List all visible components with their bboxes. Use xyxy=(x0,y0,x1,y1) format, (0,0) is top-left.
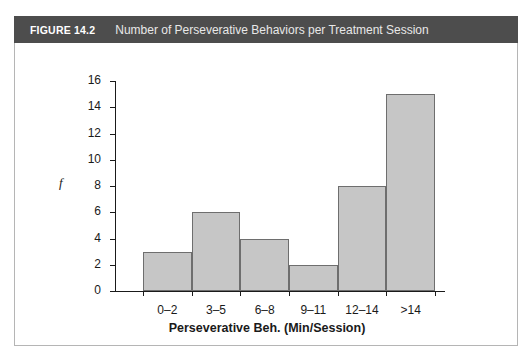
y-tick-10: 10 xyxy=(110,160,115,161)
bar xyxy=(143,252,192,291)
y-tick-label-8: 8 xyxy=(94,178,101,192)
y-tick-6: 6 xyxy=(110,212,115,213)
x-tick-2 xyxy=(240,291,241,296)
y-tick-label-12: 12 xyxy=(88,126,101,140)
x-tick-4 xyxy=(338,291,339,296)
y-tick-label-2: 2 xyxy=(94,257,101,271)
figure-panel: f 0246810121416 0–23–56–89–1112–14>14 Pe… xyxy=(14,43,518,346)
x-tick-label-4: 12–14 xyxy=(338,303,387,317)
bar xyxy=(240,239,289,292)
x-tick-label-2: 6–8 xyxy=(240,303,289,317)
y-tick-14: 14 xyxy=(110,107,115,108)
x-tick-label-0: 0–2 xyxy=(143,303,192,317)
y-tick-2: 2 xyxy=(110,265,115,266)
y-axis-title: f xyxy=(59,175,63,191)
x-tick-5 xyxy=(386,291,387,296)
y-tick-label-4: 4 xyxy=(94,231,101,245)
y-tick-label-14: 14 xyxy=(88,99,101,113)
figure-header-bar: FIGURE 14.2 Number of Perseverative Beha… xyxy=(14,16,518,43)
x-tick-end xyxy=(435,291,436,296)
bar xyxy=(289,265,338,291)
figure-number-label: FIGURE 14.2 xyxy=(30,24,95,36)
y-tick-8: 8 xyxy=(110,186,115,187)
y-tick-label-6: 6 xyxy=(94,204,101,218)
bar xyxy=(338,186,387,291)
y-tick-0: 0 xyxy=(110,291,115,292)
y-tick-label-16: 16 xyxy=(88,73,101,87)
y-tick-12: 12 xyxy=(110,134,115,135)
x-axis-title: Perseverative Beh. (Min/Session) xyxy=(15,321,519,335)
figure-caption-label: Number of Perseverative Behaviors per Tr… xyxy=(115,23,428,37)
y-tick-label-10: 10 xyxy=(88,152,101,166)
bar xyxy=(386,94,435,291)
figure-card: FIGURE 14.2 Number of Perseverative Beha… xyxy=(14,16,518,346)
x-tick-label-5: >14 xyxy=(386,303,435,317)
bar xyxy=(192,212,241,291)
y-tick-4: 4 xyxy=(110,239,115,240)
x-tick-0 xyxy=(143,291,144,296)
x-tick-label-3: 9–11 xyxy=(289,303,338,317)
plot-area: 0246810121416 0–23–56–89–1112–14>14 xyxy=(115,81,445,291)
x-tick-1 xyxy=(192,291,193,296)
x-axis-line xyxy=(115,291,445,292)
y-tick-16: 16 xyxy=(110,81,115,82)
x-tick-3 xyxy=(289,291,290,296)
x-tick-label-1: 3–5 xyxy=(192,303,241,317)
y-tick-label-0: 0 xyxy=(94,283,101,297)
y-axis-line xyxy=(115,81,116,291)
